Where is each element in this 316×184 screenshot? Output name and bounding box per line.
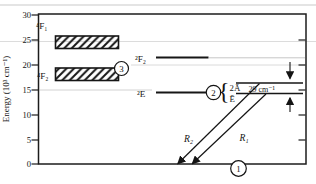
f1-pump-band — [56, 36, 119, 49]
energy-level-diagram: 30 25 20 15 10 5 0 Energy (10³ cm⁻¹) ⁴F₁… — [0, 0, 316, 184]
f2-doublet-label: ²F₂ — [135, 54, 146, 64]
y-tick-label-5: 5 — [27, 135, 31, 145]
marker-2-number: 2 — [211, 88, 215, 98]
f2-band-label: ⁴F₂ — [37, 71, 49, 81]
y-tick-label-30: 30 — [22, 10, 31, 20]
marker-1-number: 1 — [236, 164, 240, 174]
two-a-bar-label: 2Ā — [230, 83, 241, 93]
left-axis-ticks — [32, 15, 39, 164]
e-doublet-label: ²E — [137, 89, 146, 99]
r1-transition-arrow — [193, 94, 267, 164]
y-tick-label-15: 15 — [22, 85, 31, 95]
marker-3-number: 3 — [119, 64, 124, 74]
splitting-value-label: 29 cm⁻¹ — [249, 85, 276, 94]
r2-transition-label: R₂ — [183, 133, 194, 144]
y-tick-label-20: 20 — [22, 60, 31, 70]
sublevel-brace: { — [218, 78, 230, 104]
right-axis-ticks — [299, 40, 306, 140]
y-tick-label-0: 0 — [27, 159, 31, 169]
f1-band-label: ⁴F₁ — [36, 21, 48, 31]
y-axis-title: Energy (10³ cm⁻¹) — [1, 56, 11, 122]
ruby-energy-level-figure: 30 25 20 15 10 5 0 Energy (10³ cm⁻¹) ⁴F₁… — [0, 0, 316, 184]
y-tick-label-10: 10 — [22, 110, 31, 120]
e-bar-label: Ē — [230, 94, 235, 104]
y-tick-label-25: 25 — [22, 35, 31, 45]
f2-pump-band — [56, 68, 119, 81]
r1-transition-label: R₁ — [239, 132, 249, 143]
